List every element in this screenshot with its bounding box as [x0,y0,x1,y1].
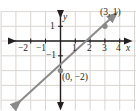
point-label-3-1: (3, 1) [100,8,121,18]
x-tick-label-4: 4 [116,44,121,54]
x-tick-label-2: 2 [87,44,92,54]
y-tick-label-neg1: −1 [46,51,56,61]
x-tick-label-1: 1 [72,44,77,54]
x-tick-label-neg1: −1 [36,44,46,54]
x-tick-label-3: 3 [102,44,107,54]
x-axis-title: x [126,44,130,54]
coordinate-graph-figure: −2 −1 1 2 3 4 1 −1 x y (3, 1) (0, −2) [0,0,136,111]
x-tick-label-neg2: −2 [18,44,28,54]
point-label-0-neg2: (0, −2) [62,73,88,83]
plotted-line [18,16,115,104]
y-axis-title: y [63,13,67,23]
y-tick-label-1: 1 [50,22,55,32]
point-marker-second [102,24,107,29]
